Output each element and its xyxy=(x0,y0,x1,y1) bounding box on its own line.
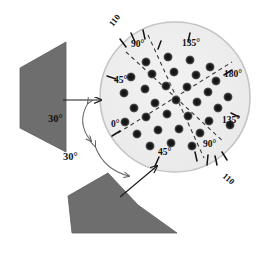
diffraction-spot xyxy=(182,82,192,92)
diffraction-spot xyxy=(187,141,197,151)
diffraction-spot xyxy=(162,109,172,119)
label-top-110: 110 xyxy=(107,12,123,28)
label-bottom-110: 110 xyxy=(221,171,237,187)
diffraction-spot xyxy=(183,111,193,121)
diffraction-spot xyxy=(140,84,150,94)
label-incidence-30-upper: 30° xyxy=(48,113,63,124)
figure-container: 110 90° 135° 180° 135° 45° 0° 45° 90° 11… xyxy=(0,0,266,258)
diffraction-spot xyxy=(213,103,223,113)
diffraction-spot xyxy=(204,116,214,126)
diffraction-spot xyxy=(147,69,157,79)
diffraction-spot xyxy=(171,95,181,105)
diffraction-spot xyxy=(174,124,184,134)
diagram-canvas: 110 90° 135° 180° 135° 45° 0° 45° 90° 11… xyxy=(0,0,266,258)
label-bottom-45: 45° xyxy=(158,147,172,157)
diffraction-spot xyxy=(169,67,179,77)
label-right-135: 135° xyxy=(222,115,240,125)
diffraction-spot xyxy=(145,141,155,151)
diffraction-spot xyxy=(191,70,201,80)
diffraction-spot xyxy=(120,117,130,127)
label-bottom-90: 90° xyxy=(203,139,217,149)
diffraction-spot xyxy=(132,129,142,139)
slab-left-crystal xyxy=(20,42,66,152)
diffraction-spot xyxy=(205,62,215,72)
arc-upper-30 xyxy=(83,103,91,141)
label-top-90: 90° xyxy=(131,39,145,49)
diffraction-spot xyxy=(153,125,163,135)
diffraction-spot xyxy=(195,128,205,138)
label-left-0: 0° xyxy=(111,119,120,129)
diffraction-spot xyxy=(126,72,136,82)
label-top-135: 135° xyxy=(182,38,200,48)
diffraction-spot xyxy=(161,81,171,91)
diffraction-spot xyxy=(129,103,139,113)
diffraction-spot xyxy=(141,112,151,122)
label-incidence-30-lower: 30° xyxy=(63,151,78,162)
diffraction-spot xyxy=(185,55,195,65)
label-right-180: 180° xyxy=(224,69,242,79)
diffraction-spot xyxy=(192,97,202,107)
diffraction-spot xyxy=(150,98,160,108)
diffraction-spot xyxy=(163,52,173,62)
diffraction-spot xyxy=(203,87,213,97)
incident-beam-lower-arrow xyxy=(120,166,157,197)
diffraction-spot xyxy=(119,88,129,98)
diffraction-spot xyxy=(223,92,233,102)
diffraction-spot xyxy=(211,76,221,86)
rim-tick-mark xyxy=(207,155,208,165)
slab-bottom-crystal xyxy=(68,173,177,233)
diffraction-spot xyxy=(141,57,151,67)
label-left-45: 45° xyxy=(114,75,128,85)
